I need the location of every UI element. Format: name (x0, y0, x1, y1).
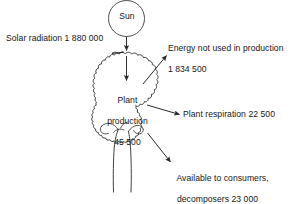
label-plant-respiration: Plant respiration 22 500 (183, 109, 275, 119)
label-plant-production-value: 45 500 (114, 137, 141, 147)
label-available-line1: Available to consumers, (176, 173, 268, 183)
sun-label: Sun (108, 11, 146, 21)
label-plant-production-line1: Plant (118, 95, 138, 105)
label-available-consumers: Available to consumers, decomposers 23 0… (172, 163, 269, 204)
label-available-line2: decomposers 23 000 (177, 194, 258, 204)
label-energy-not-used: Energy not used in production 1 834 500 (163, 33, 284, 75)
label-solar-radiation: Solar radiation 1 880 000 (6, 33, 103, 43)
label-plant-production-line2: production (107, 116, 148, 126)
label-plant-production: Plant production 45 500 (96, 85, 154, 147)
label-energy-not-used-value: 1 834 500 (168, 64, 207, 74)
label-energy-not-used-line1: Energy not used in production (168, 43, 284, 53)
